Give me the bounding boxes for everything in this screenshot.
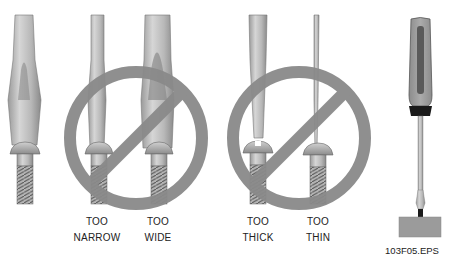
label-too-thick: TOO THICK xyxy=(228,214,288,246)
screw-thread xyxy=(17,166,33,204)
screw-head xyxy=(303,143,333,155)
handle-groove xyxy=(417,26,424,94)
panel-correct-fit xyxy=(8,15,41,204)
screw-head xyxy=(85,142,113,154)
shaft xyxy=(418,116,423,198)
prohibition-sign-2 xyxy=(233,72,365,204)
label-too-narrow: TOO NARROW xyxy=(67,214,127,246)
panel-screwdriver xyxy=(399,18,441,238)
blade-tip xyxy=(418,209,423,218)
workpiece-block xyxy=(399,217,441,237)
ferrule xyxy=(409,106,432,116)
label-too-wide: TOO WIDE xyxy=(128,214,188,246)
label-too-thin: TOO THIN xyxy=(288,214,348,246)
figure-file-label: 103F05.EPS xyxy=(372,245,452,256)
